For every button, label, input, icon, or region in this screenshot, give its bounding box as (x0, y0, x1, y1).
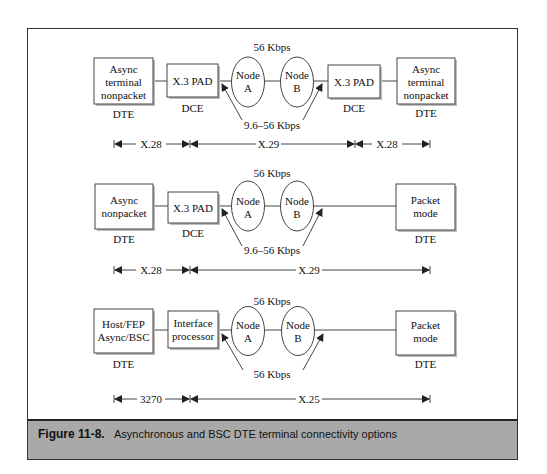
access-speed-label: 9.6–56 Kbps (244, 244, 300, 256)
svg-text:Node: Node (236, 69, 260, 81)
svg-text:nonpacket: nonpacket (101, 89, 146, 101)
left-host-box: Host/FEP Async/BSC (94, 309, 155, 355)
figure-caption-bar: Figure 11-8. Asynchronous and BSC DTE te… (27, 419, 518, 460)
backbone-speed-label: 56 Kbps (254, 41, 291, 53)
node-b: Node B (281, 57, 314, 107)
dte-label: DTE (415, 233, 437, 245)
network-diagram: 56 Kbps Async terminal nonpacket DTE X.3… (0, 0, 547, 474)
svg-text:Packet: Packet (411, 194, 440, 206)
svg-text:Packet: Packet (411, 319, 440, 331)
svg-text:nonpacket: nonpacket (403, 89, 448, 101)
svg-text:X.28: X.28 (140, 138, 162, 150)
left-pad-box: X.3 PAD (167, 64, 220, 99)
dte-label: DTE (415, 107, 437, 119)
dte-label: DTE (113, 108, 135, 120)
dte-label: DTE (113, 358, 135, 370)
right-dte-box: Packet mode (396, 311, 457, 357)
access-speed-label: 9.6–56 Kbps (244, 119, 300, 131)
svg-text:Host/FEP: Host/FEP (102, 318, 145, 330)
svg-text:nonpacket: nonpacket (101, 207, 146, 219)
svg-text:mode: mode (413, 207, 438, 219)
right-pad-box: X.3 PAD (328, 65, 382, 100)
svg-text:X.29: X.29 (258, 138, 280, 150)
svg-text:Async: Async (412, 63, 440, 75)
svg-text:Node: Node (236, 319, 260, 331)
svg-text:Async: Async (109, 63, 137, 75)
node-a: Node A (232, 57, 265, 107)
row-2: 56 Kbps Async nonpacket DTE X.3 PAD DCE … (95, 167, 457, 276)
left-dte-box: Async nonpacket (95, 184, 155, 231)
backbone-speed-label: 56 Kbps (254, 295, 291, 307)
svg-text:X.25: X.25 (298, 393, 320, 405)
svg-text:X.29: X.29 (298, 264, 320, 276)
row-1: 56 Kbps Async terminal nonpacket DTE X.3… (94, 41, 457, 150)
svg-text:X.3 PAD: X.3 PAD (173, 75, 213, 87)
protocol-dimension-line: 3270 X.25 (114, 393, 430, 405)
svg-text:X.28: X.28 (140, 264, 162, 276)
svg-text:3270: 3270 (140, 393, 163, 405)
right-dte-box: Async terminal nonpacket (397, 58, 457, 106)
svg-text:Node: Node (286, 319, 310, 331)
svg-text:X.3 PAD: X.3 PAD (334, 76, 374, 88)
backbone-speed-label: 56 Kbps (254, 167, 291, 179)
dce-label: DCE (182, 227, 204, 239)
svg-text:X.3 PAD: X.3 PAD (173, 202, 213, 214)
left-dte-box: Async terminal nonpacket (94, 58, 155, 106)
svg-text:terminal: terminal (105, 76, 142, 88)
svg-text:X.28: X.28 (376, 138, 398, 150)
svg-text:Node: Node (236, 195, 260, 207)
figure-number: Figure 11-8. (38, 427, 105, 441)
interface-processor-box: Interface processor (168, 311, 220, 350)
svg-text:Node: Node (285, 69, 309, 81)
access-speed-label: 56 Kbps (254, 368, 291, 380)
figure-caption: Asynchronous and BSC DTE terminal connec… (114, 428, 397, 440)
svg-text:mode: mode (413, 332, 438, 344)
svg-text:Async/BSC: Async/BSC (98, 331, 150, 343)
svg-text:A: A (244, 208, 252, 220)
node-a: Node A (232, 307, 265, 356)
svg-text:Node: Node (285, 195, 309, 207)
svg-text:processor: processor (172, 330, 214, 342)
svg-text:B: B (293, 82, 300, 94)
node-b: Node B (281, 181, 314, 231)
dte-label: DTE (113, 233, 135, 245)
row-3: 56 Kbps Host/FEP Async/BSC DTE Interface… (94, 295, 457, 405)
svg-text:A: A (244, 332, 252, 344)
svg-text:A: A (244, 82, 252, 94)
right-dte-box: Packet mode (396, 184, 457, 232)
svg-text:Interface: Interface (173, 317, 212, 329)
dce-label: DCE (343, 102, 365, 114)
svg-text:terminal: terminal (408, 76, 445, 88)
svg-text:Async: Async (110, 194, 138, 206)
dce-label: DCE (182, 102, 204, 114)
left-pad-box: X.3 PAD (168, 192, 220, 225)
svg-text:B: B (293, 208, 300, 220)
protocol-dimension-line: X.28 X.29 X.28 (114, 138, 430, 150)
protocol-dimension-line: X.28 X.29 (114, 264, 430, 276)
dte-label: DTE (415, 358, 437, 370)
svg-text:B: B (294, 332, 301, 344)
node-b: Node B (282, 307, 315, 356)
node-a: Node A (232, 181, 265, 231)
